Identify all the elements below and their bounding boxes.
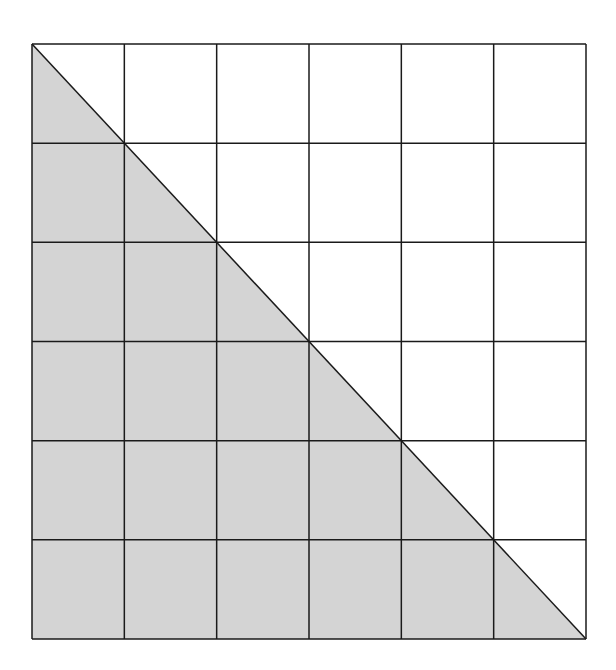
grid-diagram [0,0,616,670]
